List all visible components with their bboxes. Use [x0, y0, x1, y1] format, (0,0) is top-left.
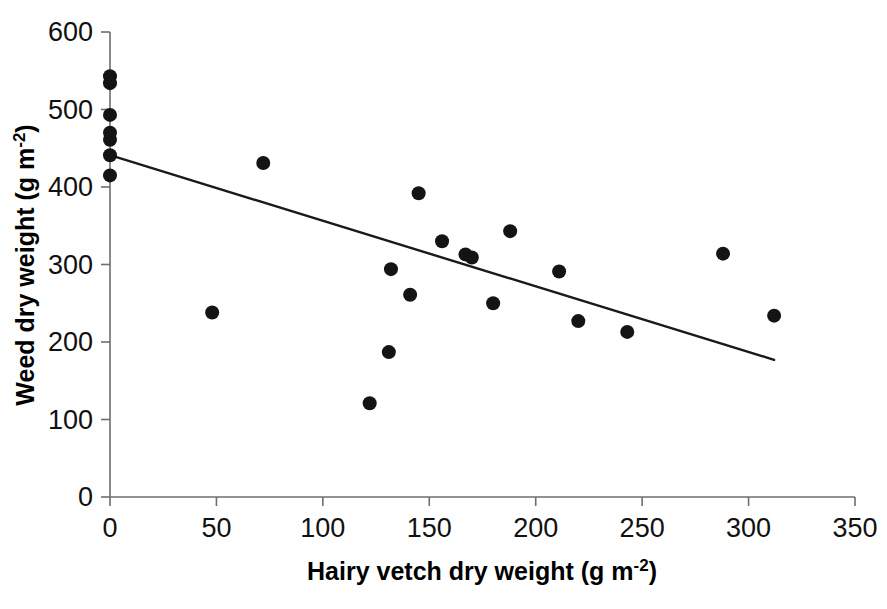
data-point	[403, 288, 417, 302]
data-point	[435, 234, 449, 248]
data-point	[552, 264, 566, 278]
scatter-plot-svg: 0100200300400500600 05010015020025030035…	[0, 0, 887, 609]
data-point	[620, 325, 634, 339]
y-tick-label: 400	[48, 172, 93, 202]
axes-group	[110, 32, 855, 497]
data-point	[384, 262, 398, 276]
data-point	[503, 224, 517, 238]
data-point	[412, 186, 426, 200]
chart-figure: 0100200300400500600 05010015020025030035…	[0, 0, 887, 609]
x-tick-label: 250	[620, 513, 665, 543]
data-point	[103, 148, 117, 162]
data-point	[363, 396, 377, 410]
data-point	[382, 345, 396, 359]
x-tick-label: 200	[513, 513, 558, 543]
x-tick-label: 300	[726, 513, 771, 543]
y-axis-tick-labels: 0100200300400500600	[48, 17, 93, 512]
x-axis-tick-labels: 050100150200250300350	[102, 513, 877, 543]
data-point	[103, 108, 117, 122]
data-points-group	[103, 69, 781, 410]
x-axis-ticks	[110, 497, 855, 506]
y-tick-label: 300	[48, 250, 93, 280]
y-tick-label: 100	[48, 405, 93, 435]
y-axis-ticks	[101, 32, 110, 497]
x-axis-title: Hairy vetch dry weight (g m-2)	[307, 556, 657, 585]
regression-trend-line	[110, 155, 774, 360]
data-point	[716, 247, 730, 261]
data-point	[571, 314, 585, 328]
y-tick-label: 500	[48, 95, 93, 125]
data-point	[103, 168, 117, 182]
x-tick-label: 350	[832, 513, 877, 543]
x-tick-label: 0	[102, 513, 117, 543]
y-tick-label: 600	[48, 17, 93, 47]
x-tick-label: 100	[300, 513, 345, 543]
data-point	[486, 296, 500, 310]
y-tick-label: 200	[48, 327, 93, 357]
data-point	[767, 309, 781, 323]
y-axis-title: Weed dry weight (g m-2)	[10, 124, 39, 405]
x-tick-label: 50	[201, 513, 231, 543]
data-point	[103, 76, 117, 90]
data-point	[256, 156, 270, 170]
data-point	[465, 251, 479, 265]
y-tick-label: 0	[78, 482, 93, 512]
x-tick-label: 150	[407, 513, 452, 543]
data-point	[205, 306, 219, 320]
data-point	[103, 133, 117, 147]
